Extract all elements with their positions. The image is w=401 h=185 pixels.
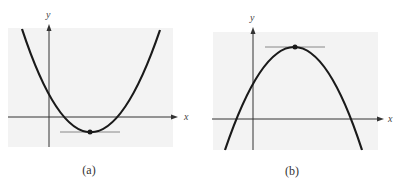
panel-b-y-label: y [249,12,255,23]
panel-b: y x (b) [212,12,393,178]
panel-b-background [213,32,378,150]
panel-b-y-arrow-icon [251,27,256,34]
panel-a: y x (a) [8,9,189,177]
panel-a-background [8,28,173,147]
panel-b-x-label: x [387,113,393,124]
panel-b-maximum-point [293,45,298,50]
panel-b-caption: (b) [285,164,299,178]
panel-a-x-label: x [183,111,189,122]
figure: y x (a) y x (b) [0,0,401,185]
panel-b-x-arrow-icon [377,117,384,122]
panel-a-caption: (a) [82,163,95,177]
panel-a-x-arrow-icon [171,115,178,120]
panel-a-y-arrow-icon [47,24,52,31]
panel-a-y-label: y [45,9,51,20]
panel-a-minimum-point [88,130,93,135]
